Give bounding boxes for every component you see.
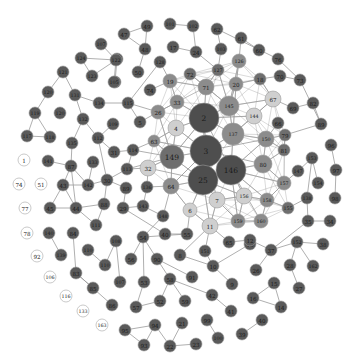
node-label: 81 <box>280 148 287 154</box>
node-22: 22 <box>164 340 176 352</box>
node-label: 146 <box>224 166 239 175</box>
node-label: 89 <box>317 122 325 128</box>
node-113: 113 <box>121 163 133 175</box>
node-55: 55 <box>181 228 193 240</box>
node-79: 79 <box>279 129 291 141</box>
node-53: 53 <box>138 276 150 288</box>
node-143: 143 <box>137 200 149 212</box>
node-label: 14 <box>277 305 285 311</box>
node-label: 65 <box>225 240 233 246</box>
node-4: 4 <box>168 120 184 136</box>
node-label: 134 <box>94 101 103 106</box>
node-147: 147 <box>292 165 304 177</box>
node-101: 101 <box>164 18 176 30</box>
node-51: 51 <box>35 178 47 190</box>
node-26: 26 <box>151 105 165 119</box>
node-9: 9 <box>226 278 238 290</box>
node-95: 95 <box>119 324 131 336</box>
node-1: 1 <box>18 154 30 166</box>
node-3: 3 <box>190 135 222 167</box>
node-154: 154 <box>312 177 324 189</box>
node-label: 29 <box>119 206 127 212</box>
node-131: 131 <box>69 89 81 101</box>
node-135: 135 <box>66 137 78 149</box>
node-label: 120 <box>55 111 64 116</box>
node-label: 51 <box>37 182 44 188</box>
node-72: 72 <box>184 68 196 80</box>
node-label: 53 <box>140 280 148 286</box>
node-label: 158 <box>262 198 271 203</box>
node-66: 66 <box>272 117 284 129</box>
node-39: 39 <box>236 328 248 340</box>
node-label: 109 <box>108 122 117 127</box>
node-label: 56 <box>127 257 135 263</box>
node-label: 45 <box>46 206 54 212</box>
node-label: 110 <box>100 263 109 268</box>
node-label: 41 <box>227 309 234 315</box>
node-label: 89 <box>122 186 130 192</box>
node-115: 115 <box>122 97 134 109</box>
node-label: 110 <box>83 248 92 253</box>
node-label: 61 <box>237 36 244 42</box>
node-110: 110 <box>99 259 111 271</box>
node-label: 27 <box>295 286 303 292</box>
node-23: 23 <box>190 338 202 350</box>
node-label: 142 <box>83 183 92 188</box>
node-74: 74 <box>144 84 156 96</box>
node-label: 101 <box>165 22 174 27</box>
node-77: 77 <box>19 202 31 214</box>
node-label: 8 <box>178 253 182 259</box>
node-148: 148 <box>157 210 169 222</box>
node-label: 20 <box>232 82 240 88</box>
node-100: 100 <box>212 332 224 344</box>
node-133: 133 <box>77 305 89 317</box>
node-15: 15 <box>268 277 280 289</box>
node-label: 151 <box>200 249 209 254</box>
node-160: 160 <box>254 214 268 228</box>
node-82: 82 <box>307 97 319 109</box>
node-41: 41 <box>225 305 237 317</box>
node-52: 52 <box>154 295 166 307</box>
node-label: 120 <box>43 90 52 95</box>
node-49: 49 <box>141 20 153 32</box>
node-label: 86 <box>108 303 116 309</box>
node-label: 17 <box>169 45 177 51</box>
node-label: 157 <box>279 181 288 186</box>
node-88: 88 <box>98 198 110 210</box>
node-label: 106 <box>45 275 54 280</box>
node-label: 37 <box>267 248 275 254</box>
node-label: 140 <box>44 231 53 236</box>
node-64: 64 <box>163 178 179 194</box>
node-114: 114 <box>127 144 139 156</box>
node-61: 61 <box>235 32 247 44</box>
node-label: 78 <box>23 231 31 237</box>
node-label: 132 <box>78 117 87 122</box>
node-152: 152 <box>291 236 303 248</box>
node-40: 40 <box>256 314 268 326</box>
node-42: 42 <box>206 289 218 301</box>
node-label: 143 <box>138 204 147 209</box>
node-140: 140 <box>43 227 55 239</box>
node-label: 159 <box>233 219 242 224</box>
node-label: 100 <box>213 336 222 341</box>
node-86: 86 <box>106 299 118 311</box>
node-2: 2 <box>189 103 219 133</box>
node-label: 76 <box>274 57 282 63</box>
node-156: 156 <box>236 188 252 204</box>
node-label: 136 <box>142 185 151 190</box>
node-27: 27 <box>293 282 305 294</box>
node-label: 67 <box>269 97 277 103</box>
node-label: 94 <box>151 323 159 329</box>
node-label: 103 <box>216 47 225 52</box>
node-label: 160 <box>256 219 265 224</box>
node-label: 63 <box>150 139 158 145</box>
node-label: 15 <box>270 281 278 287</box>
node-label: 32 <box>144 166 152 172</box>
node-label: 123 <box>87 74 96 79</box>
node-60: 60 <box>253 44 265 56</box>
node-119: 119 <box>29 107 41 119</box>
node-37: 37 <box>265 244 277 256</box>
node-157: 157 <box>277 176 291 190</box>
node-label: 49 <box>143 24 151 30</box>
node-label: 99 <box>203 318 211 324</box>
